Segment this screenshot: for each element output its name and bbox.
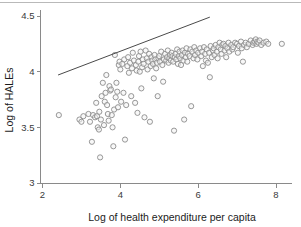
y-tick-label: 3 xyxy=(29,177,34,188)
data-point xyxy=(108,87,113,92)
data-point xyxy=(129,94,134,99)
data-point xyxy=(98,155,103,160)
y-axis-title: Log of HALEs xyxy=(3,68,15,133)
data-point xyxy=(154,66,159,71)
data-point xyxy=(98,117,103,122)
data-point xyxy=(124,102,129,107)
data-point xyxy=(119,99,124,104)
data-points xyxy=(56,37,284,160)
data-point xyxy=(122,137,127,142)
y-tick-label: 3.5 xyxy=(21,122,34,133)
data-point xyxy=(111,144,116,149)
data-point xyxy=(139,86,144,91)
data-point xyxy=(215,56,220,61)
data-point xyxy=(142,115,147,120)
data-point xyxy=(224,55,229,60)
data-point xyxy=(189,104,194,109)
y-tick-label: 4.5 xyxy=(21,10,34,21)
data-point xyxy=(104,72,109,77)
data-point xyxy=(130,50,135,55)
scatter-plot: 33.544.5 2468 Log of health expenditure … xyxy=(0,0,301,227)
data-point xyxy=(205,60,210,65)
x-axis-title: Log of health expenditure per capita xyxy=(88,211,256,223)
data-point xyxy=(56,112,61,117)
data-point xyxy=(240,59,245,64)
data-point xyxy=(106,118,111,123)
data-point xyxy=(235,50,240,55)
data-point xyxy=(87,119,92,124)
data-point xyxy=(109,112,114,117)
data-point xyxy=(138,49,143,54)
data-point xyxy=(160,62,165,67)
data-point xyxy=(115,89,120,94)
data-point xyxy=(101,123,106,128)
data-point xyxy=(118,67,123,72)
data-point xyxy=(94,100,99,105)
data-point xyxy=(185,59,190,64)
data-point xyxy=(161,79,166,84)
x-tick-label: 6 xyxy=(196,189,201,200)
x-tick-label: 4 xyxy=(118,189,123,200)
data-point xyxy=(200,64,205,69)
x-tick-label: 2 xyxy=(40,189,45,200)
data-point xyxy=(147,119,152,124)
data-point xyxy=(155,94,160,99)
data-point xyxy=(114,80,119,85)
x-axis-ticks: 2468 xyxy=(40,184,279,200)
data-point xyxy=(207,75,212,80)
data-point xyxy=(100,80,105,85)
data-point xyxy=(279,41,284,46)
data-point xyxy=(182,117,187,122)
data-point xyxy=(113,95,118,100)
x-tick-label: 8 xyxy=(273,189,278,200)
data-point xyxy=(115,105,120,110)
data-point xyxy=(151,76,156,81)
y-tick-label: 4 xyxy=(29,66,34,77)
data-point xyxy=(133,100,138,105)
data-point xyxy=(97,109,102,114)
data-point xyxy=(171,128,176,133)
data-point xyxy=(105,102,110,107)
data-point xyxy=(121,90,126,95)
data-point xyxy=(96,127,101,132)
data-point xyxy=(266,41,271,46)
data-point xyxy=(110,125,115,130)
data-point xyxy=(79,119,84,124)
chart-figure: 33.544.5 2468 Log of health expenditure … xyxy=(0,0,301,227)
data-point xyxy=(89,139,94,144)
axes xyxy=(41,10,293,184)
data-point xyxy=(135,110,140,115)
data-point xyxy=(81,114,86,119)
data-point xyxy=(126,55,131,60)
y-axis-ticks: 33.544.5 xyxy=(21,10,40,188)
